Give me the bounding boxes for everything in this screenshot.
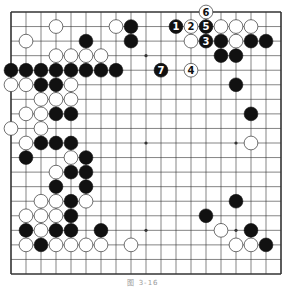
black-stone <box>214 49 228 63</box>
black-stone <box>214 34 228 48</box>
white-stone <box>124 238 138 252</box>
black-stone <box>64 107 78 121</box>
white-stone <box>94 238 108 252</box>
white-stone <box>229 34 243 48</box>
white-stone <box>214 20 228 34</box>
black-stone <box>244 223 258 237</box>
white-stone <box>34 92 48 106</box>
white-stone <box>19 238 33 252</box>
white-stone <box>49 92 63 106</box>
black-stone <box>259 238 273 252</box>
black-stone <box>49 63 63 77</box>
white-stone <box>34 107 48 121</box>
black-stone <box>64 136 78 150</box>
black-stone <box>94 63 108 77</box>
white-stone <box>244 136 258 150</box>
white-stone <box>94 49 108 63</box>
black-stone <box>244 34 258 48</box>
black-stone <box>49 223 63 237</box>
white-stone <box>4 78 18 92</box>
white-stone <box>4 122 18 136</box>
white-stone <box>34 122 48 136</box>
black-stone <box>64 63 78 77</box>
star-point <box>234 229 237 232</box>
white-stone <box>79 49 93 63</box>
black-stone <box>94 223 108 237</box>
star-point <box>144 54 147 57</box>
black-stone <box>64 209 78 223</box>
numbered-stone-1: 1 <box>169 20 183 34</box>
black-stone <box>79 63 93 77</box>
black-stone <box>79 180 93 194</box>
star-point <box>144 229 147 232</box>
move-number: 3 <box>203 36 210 47</box>
black-stone <box>19 223 33 237</box>
black-stone <box>4 63 18 77</box>
star-point <box>144 141 147 144</box>
black-stone <box>49 78 63 92</box>
black-stone <box>79 151 93 165</box>
black-stone <box>49 136 63 150</box>
white-stone <box>244 20 258 34</box>
black-stone <box>109 63 123 77</box>
black-stone <box>34 238 48 252</box>
numbered-stone-3: 3 <box>199 34 213 48</box>
white-stone <box>19 107 33 121</box>
black-stone <box>64 194 78 208</box>
white-stone <box>64 49 78 63</box>
move-number: 2 <box>188 21 195 32</box>
white-stone <box>79 238 93 252</box>
white-stone <box>34 194 48 208</box>
black-stone <box>199 209 213 223</box>
white-stone <box>19 136 33 150</box>
white-stone <box>184 34 198 48</box>
black-stone <box>229 194 243 208</box>
numbered-stone-4: 4 <box>184 63 198 77</box>
white-stone <box>229 20 243 34</box>
black-stone <box>79 34 93 48</box>
white-stone <box>49 49 63 63</box>
black-stone <box>229 78 243 92</box>
white-stone <box>109 20 123 34</box>
white-stone <box>19 78 33 92</box>
white-stone <box>49 194 63 208</box>
move-number: 5 <box>203 21 210 32</box>
black-stone <box>79 165 93 179</box>
white-stone <box>49 165 63 179</box>
figure-caption: 图 3-16 <box>0 277 286 287</box>
white-stone <box>49 209 63 223</box>
white-stone <box>34 209 48 223</box>
white-stone <box>34 223 48 237</box>
white-stone <box>64 238 78 252</box>
numbered-stone-7: 7 <box>154 63 168 77</box>
black-stone <box>64 223 78 237</box>
black-stone <box>244 107 258 121</box>
move-number: 1 <box>173 21 180 32</box>
black-stone <box>49 180 63 194</box>
black-stone <box>34 78 48 92</box>
black-stone <box>19 151 33 165</box>
numbered-stone-2: 2 <box>184 20 198 34</box>
white-stone <box>19 34 33 48</box>
black-stone <box>124 34 138 48</box>
white-stone <box>19 209 33 223</box>
black-stone <box>34 136 48 150</box>
star-point <box>234 141 237 144</box>
white-stone <box>64 78 78 92</box>
numbered-stone-5: 5 <box>199 20 213 34</box>
white-stone <box>214 223 228 237</box>
stones-layer <box>4 20 273 252</box>
white-stone <box>49 238 63 252</box>
numbered-stone-6: 6 <box>199 5 213 19</box>
black-stone <box>64 165 78 179</box>
white-stone <box>79 194 93 208</box>
black-stone <box>229 49 243 63</box>
black-stone <box>49 107 63 121</box>
move-number: 6 <box>203 7 210 18</box>
black-stone <box>124 20 138 34</box>
black-stone <box>34 63 48 77</box>
white-stone <box>64 92 78 106</box>
white-stone <box>64 151 78 165</box>
move-number: 4 <box>188 65 195 76</box>
